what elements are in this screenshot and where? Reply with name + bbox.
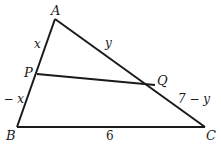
segment-label-aq: y (104, 36, 112, 50)
triangle-diagram: A B C P Q x y 6 − x 7 − y 6 (0, 0, 221, 154)
vertex-label-q: Q (157, 73, 168, 88)
side-ac (55, 19, 205, 127)
segment-label-qc: 7 − y (178, 92, 210, 106)
diagram-svg: A B C P Q x y 6 − x 7 − y 6 (0, 0, 221, 154)
vertex-label-c: C (206, 128, 216, 143)
segment-label-bc: 6 (106, 129, 114, 143)
vertex-label-p: P (23, 65, 33, 80)
segment-label-pb: 6 − x (0, 92, 24, 106)
vertex-label-a: A (50, 3, 60, 18)
side-ab (17, 19, 55, 127)
segment-label-ap: x (34, 37, 41, 51)
vertex-label-b: B (5, 128, 16, 143)
segment-pq (37, 74, 155, 85)
